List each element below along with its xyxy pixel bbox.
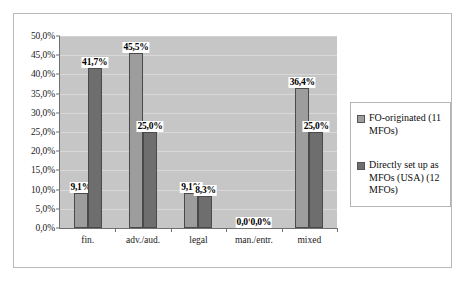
y-axis-tick-label: 15,0% — [31, 165, 55, 175]
y-axis-tick-label: 10,0% — [31, 185, 55, 195]
y-axis-tick-label: 50,0% — [31, 31, 55, 41]
y-axis-tick-label: 25,0% — [31, 127, 55, 137]
bar[interactable]: 25,0% — [143, 132, 157, 228]
chart-legend: FO-originated (11 MFOs) Directly set up … — [350, 102, 451, 207]
bar-value-label: 8,3% — [194, 185, 217, 196]
bar-value-label: 41,7% — [81, 57, 108, 68]
legend-item[interactable]: FO-originated (11 MFOs) — [357, 112, 445, 137]
x-axis-tick-mark — [226, 228, 227, 232]
legend-item[interactable]: Directly set up as MFOs (USA) (12 MFOs) — [357, 159, 445, 197]
x-axis-tick-label: fin. — [81, 235, 94, 245]
bar-value-label: 45,5% — [123, 42, 150, 53]
bar-group: 36,4%25,0% — [282, 36, 337, 228]
bar-value-label: 25,0% — [137, 121, 164, 132]
bar-group: 9,1%41,7% — [60, 36, 115, 228]
bar[interactable]: 9,1% — [184, 193, 198, 228]
x-axis-tick-label: mixed — [297, 235, 321, 245]
plot-area: 0,0%5,0%10,0%15,0%20,0%25,0%30,0%35,0%40… — [59, 36, 337, 229]
y-axis-tick-label: 20,0% — [31, 146, 55, 156]
x-axis-tick-label: legal — [189, 235, 207, 245]
bar[interactable]: 36,4% — [295, 88, 309, 228]
y-axis-tick-label: 30,0% — [31, 108, 55, 118]
legend-item-label: Directly set up as MFOs (USA) (12 MFOs) — [369, 159, 445, 197]
bar[interactable]: 41,7% — [88, 68, 102, 228]
bar-group: 0,0%0,0% — [226, 36, 281, 228]
x-axis-tick-mark — [171, 228, 172, 232]
legend-swatch-icon — [357, 115, 365, 123]
bar-series-container: 9,1%41,7%45,5%25,0%9,1%8,3%0,0%0,0%36,4%… — [60, 36, 337, 228]
y-axis-tick-label: 40,0% — [31, 69, 55, 79]
x-axis-tick-mark — [282, 228, 283, 232]
y-axis-tick-label: 45,0% — [31, 50, 55, 60]
y-axis-tick-label: 35,0% — [31, 89, 55, 99]
chart-frame: 0,0%5,0%10,0%15,0%20,0%25,0%30,0%35,0%40… — [13, 13, 452, 268]
bar-group: 9,1%8,3% — [171, 36, 226, 228]
bar-value-label: 25,0% — [303, 121, 330, 132]
bar[interactable]: 8,3% — [198, 196, 212, 228]
bar[interactable]: 25,0% — [309, 132, 323, 228]
bar[interactable]: 9,1% — [74, 193, 88, 228]
bar[interactable]: 45,5% — [129, 53, 143, 228]
x-axis-tick-label: man./entr. — [235, 235, 273, 245]
legend-item-label: FO-originated (11 MFOs) — [369, 112, 445, 137]
x-axis-tick-mark — [115, 228, 116, 232]
y-axis-tick-label: 5,0% — [36, 204, 55, 214]
bar-value-label: 36,4% — [289, 77, 316, 88]
bar-value-label: 0,0% — [250, 217, 273, 228]
x-axis-tick-mark — [337, 228, 338, 232]
y-axis-tick-label: 0,0% — [36, 223, 55, 233]
legend-swatch-icon — [357, 162, 365, 170]
x-axis-tick-label: adv./aud. — [126, 235, 160, 245]
bar-group: 45,5%25,0% — [115, 36, 170, 228]
